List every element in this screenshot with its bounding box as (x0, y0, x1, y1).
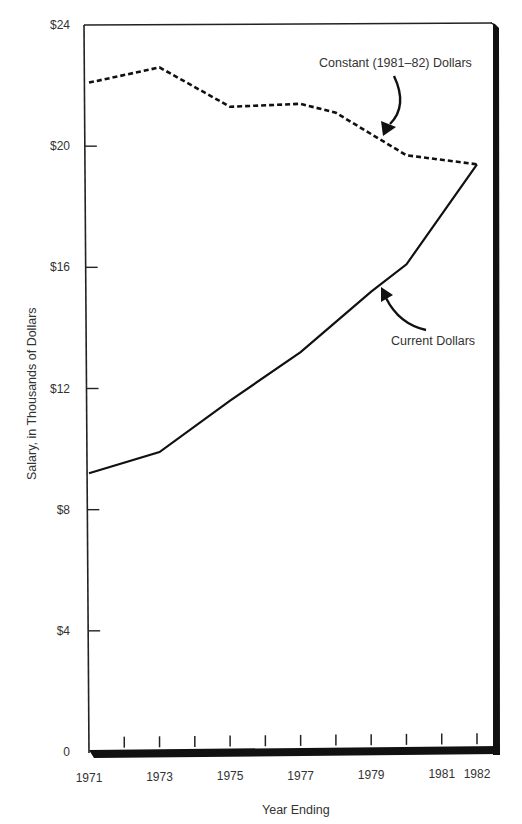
y-tick-label: $20 (50, 139, 70, 153)
current-dollars-annotation: Current Dollars (391, 334, 475, 348)
y-axis-title: Salary, in Thousands of Dollars (25, 307, 39, 480)
x-tick-label: 1979 (358, 768, 385, 782)
x-tick-label: 1977 (287, 769, 314, 783)
x-tick-label: 1982 (464, 767, 491, 781)
current-dollars-arrow-icon (386, 298, 426, 330)
y-tick-label: $8 (57, 503, 71, 517)
constant-dollars-arrow-icon (390, 76, 400, 124)
salary-line-chart: 0$4$8$12$16$20$24 1971197319751977197919… (0, 0, 522, 824)
x-axis-line (89, 746, 500, 758)
constant-dollars-annotation: Constant (1981–82) Dollars (319, 56, 472, 70)
plot-frame-right-shadow (490, 22, 500, 755)
x-tick-label: 1971 (76, 771, 103, 785)
y-tick-label: $24 (50, 18, 70, 32)
x-axis-ticks: 1971197319751977197919811982 (76, 733, 491, 785)
current-dollars-line (89, 164, 477, 473)
x-tick-label: 1981 (428, 767, 455, 781)
y-tick-label: $16 (50, 260, 70, 274)
constant-dollars-line (89, 67, 477, 164)
plot-frame-top (84, 23, 492, 25)
y-tick-label: $4 (57, 624, 71, 638)
y-tick-label: $12 (50, 382, 70, 396)
constant-dollars-arrowhead-icon (381, 121, 396, 136)
x-axis-title: Year Ending (262, 803, 330, 817)
x-tick-label: 1975 (217, 769, 244, 783)
x-tick-label: 1973 (146, 770, 173, 784)
y-tick-label: 0 (63, 745, 70, 759)
y-axis-ticks: 0$4$8$12$16$20$24 (50, 18, 100, 759)
